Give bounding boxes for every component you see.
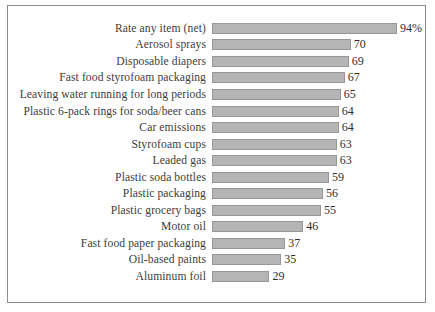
chart-row: Plastic 6-pack rings for soda/beer cans6… bbox=[9, 103, 422, 120]
bar bbox=[212, 106, 339, 117]
category-label: Oil-based paints bbox=[9, 253, 206, 266]
bar bbox=[212, 23, 397, 34]
chart-row: Styrofoam cups63 bbox=[9, 136, 422, 153]
category-label-text: Styrofoam cups bbox=[132, 138, 207, 151]
chart-row: Fast food styrofoam packaging67 bbox=[9, 70, 422, 87]
value-label: 46 bbox=[306, 219, 318, 234]
bar-area: 67 bbox=[212, 70, 422, 87]
bar-area: 69 bbox=[212, 53, 422, 70]
category-label: Styrofoam cups bbox=[9, 138, 206, 151]
bar bbox=[212, 188, 323, 199]
bar-area: 64 bbox=[212, 119, 422, 136]
bar-area: 63 bbox=[212, 136, 422, 153]
bar bbox=[212, 56, 349, 67]
category-label: Car emissions bbox=[9, 121, 206, 134]
chart-row: Aerosol sprays70 bbox=[9, 37, 422, 54]
category-label-text: Plastic 6-pack rings for soda/beer cans bbox=[23, 105, 206, 118]
category-label-text: Motor oil bbox=[161, 220, 206, 233]
value-label: 64 bbox=[342, 120, 354, 135]
chart-frame: Rate any item (net)94%Aerosol sprays70Di… bbox=[7, 5, 426, 303]
bar bbox=[212, 254, 281, 265]
category-label: Plastic soda bottles bbox=[9, 171, 206, 184]
bar-area: 59 bbox=[212, 169, 422, 186]
value-label: 94% bbox=[400, 21, 422, 36]
category-label: Fast food paper packaging bbox=[9, 237, 206, 250]
bar bbox=[212, 155, 337, 166]
category-label: Plastic grocery bags bbox=[9, 204, 206, 217]
bar-area: 29 bbox=[212, 268, 422, 285]
value-label: 69 bbox=[352, 54, 364, 69]
bar-area: 64 bbox=[212, 103, 422, 120]
bar-area: 56 bbox=[212, 185, 422, 202]
bar bbox=[212, 122, 339, 133]
chart-row: Rate any item (net)94% bbox=[9, 20, 422, 37]
bar-area: 94% bbox=[212, 20, 422, 37]
value-label: 35 bbox=[284, 252, 296, 267]
category-label: Plastic packaging bbox=[9, 187, 206, 200]
category-label-text: Aluminum foil bbox=[135, 270, 206, 283]
bar-area: 35 bbox=[212, 252, 422, 269]
bar-area: 46 bbox=[212, 219, 422, 236]
chart-row: Motor oil46 bbox=[9, 219, 422, 236]
category-label-text: Disposable diapers bbox=[116, 55, 206, 68]
chart-row: Plastic grocery bags55 bbox=[9, 202, 422, 219]
value-label: 64 bbox=[342, 104, 354, 119]
chart-row: Oil-based paints35 bbox=[9, 252, 422, 269]
chart-row: Disposable diapers69 bbox=[9, 53, 422, 70]
bar-area: 55 bbox=[212, 202, 422, 219]
bar bbox=[212, 238, 285, 249]
bar-chart: Rate any item (net)94%Aerosol sprays70Di… bbox=[9, 20, 422, 288]
category-label-text: Leaded gas bbox=[153, 154, 206, 167]
bar bbox=[212, 39, 351, 50]
category-label-text: Oil-based paints bbox=[129, 253, 206, 266]
category-label-text: Fast food paper packaging bbox=[81, 237, 206, 250]
chart-row: Aluminum foil29 bbox=[9, 268, 422, 285]
value-label: 37 bbox=[288, 236, 300, 251]
chart-row: Leaving water running for long periods65 bbox=[9, 86, 422, 103]
bar bbox=[212, 271, 269, 282]
category-label: Plastic 6-pack rings for soda/beer cans bbox=[9, 105, 206, 118]
chart-row: Plastic soda bottles59 bbox=[9, 169, 422, 186]
bar-area: 70 bbox=[212, 37, 422, 54]
value-label: 56 bbox=[326, 186, 338, 201]
value-label: 59 bbox=[332, 170, 344, 185]
bar bbox=[212, 205, 321, 216]
bar bbox=[212, 139, 337, 150]
bar bbox=[212, 72, 345, 83]
chart-row: Leaded gas63 bbox=[9, 152, 422, 169]
category-label-text: Fast food styrofoam packaging bbox=[59, 71, 206, 84]
value-label: 63 bbox=[340, 137, 352, 152]
value-label: 67 bbox=[348, 70, 360, 85]
bar bbox=[212, 89, 341, 100]
chart-row: Car emissions64 bbox=[9, 119, 422, 136]
category-label-text: Aerosol sprays bbox=[135, 38, 206, 51]
category-label-text: Rate any item (net) bbox=[115, 22, 206, 35]
value-label: 29 bbox=[272, 269, 284, 284]
category-label: Disposable diapers bbox=[9, 55, 206, 68]
category-label: Leaded gas bbox=[9, 154, 206, 167]
value-label: 65 bbox=[344, 87, 356, 102]
category-label-text: Plastic packaging bbox=[123, 187, 206, 200]
bar-area: 63 bbox=[212, 152, 422, 169]
category-label-text: Plastic grocery bags bbox=[111, 204, 206, 217]
chart-row: Plastic packaging56 bbox=[9, 185, 422, 202]
category-label: Fast food styrofoam packaging bbox=[9, 71, 206, 84]
category-label: Aerosol sprays bbox=[9, 38, 206, 51]
bar-area: 65 bbox=[212, 86, 422, 103]
category-label: Aluminum foil bbox=[9, 270, 206, 283]
category-label: Leaving water running for long periods bbox=[9, 88, 206, 101]
category-label-text: Leaving water running for long periods bbox=[20, 88, 206, 101]
category-label: Motor oil bbox=[9, 220, 206, 233]
bar bbox=[212, 221, 303, 232]
value-label: 63 bbox=[340, 153, 352, 168]
category-label-text: Car emissions bbox=[139, 121, 206, 134]
chart-row: Fast food paper packaging37 bbox=[9, 235, 422, 252]
value-label: 55 bbox=[324, 203, 336, 218]
bar bbox=[212, 172, 329, 183]
value-label: 70 bbox=[354, 37, 366, 52]
bar-area: 37 bbox=[212, 235, 422, 252]
category-label-text: Plastic soda bottles bbox=[115, 171, 206, 184]
category-label: Rate any item (net) bbox=[9, 22, 206, 35]
